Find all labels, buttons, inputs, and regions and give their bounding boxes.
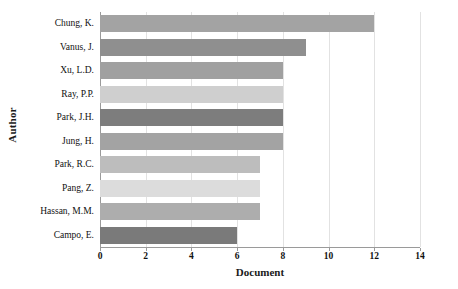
x-tick-label: 2: [143, 251, 148, 261]
plot-area: [100, 12, 420, 247]
x-axis-ticks: 02468101214: [100, 248, 420, 262]
x-tick-label: 6: [235, 251, 240, 261]
bar[interactable]: [100, 203, 260, 220]
x-tick-label: 0: [98, 251, 103, 261]
category-label: Pang, Z.: [18, 177, 98, 201]
bar-row: [100, 36, 420, 60]
x-axis-title: Document: [100, 266, 420, 278]
bar[interactable]: [100, 62, 283, 79]
category-label: Park, R.C.: [18, 153, 98, 177]
category-label: Hassan, M.M.: [18, 200, 98, 224]
bar-row: [100, 200, 420, 224]
x-tick-label: 12: [370, 251, 380, 261]
x-tick-label: 10: [324, 251, 334, 261]
bar[interactable]: [100, 156, 260, 173]
category-axis-labels: Chung, K. Vanus, J. Xu, L.D. Ray, P.P. P…: [18, 12, 98, 247]
bar-row: [100, 83, 420, 107]
x-tick-label: 14: [415, 251, 425, 261]
bar-row: [100, 12, 420, 36]
bar[interactable]: [100, 227, 237, 244]
category-label: Park, J.H.: [18, 106, 98, 130]
bar[interactable]: [100, 180, 260, 197]
bar-row: [100, 59, 420, 83]
bar-row: [100, 177, 420, 201]
category-label: Jung, H.: [18, 130, 98, 154]
bar-series: [100, 12, 420, 247]
category-label: Ray, P.P.: [18, 83, 98, 107]
category-label: Campo, E.: [18, 224, 98, 248]
category-label: Vanus, J.: [18, 36, 98, 60]
x-tick-label: 8: [280, 251, 285, 261]
bar-row: [100, 153, 420, 177]
x-tick-label: 4: [189, 251, 194, 261]
bar[interactable]: [100, 15, 374, 32]
bar-row: [100, 130, 420, 154]
y-axis-title-text: Author: [6, 107, 18, 142]
bar-row: [100, 224, 420, 248]
bar-row: [100, 106, 420, 130]
bar-chart: Author Chung, K. Vanus, J. Xu, L.D. Ray,…: [0, 0, 458, 289]
bar[interactable]: [100, 109, 283, 126]
gridline: [420, 12, 421, 247]
category-label: Xu, L.D.: [18, 59, 98, 83]
category-label: Chung, K.: [18, 12, 98, 36]
bar[interactable]: [100, 39, 306, 56]
bar[interactable]: [100, 133, 283, 150]
bar[interactable]: [100, 86, 283, 103]
